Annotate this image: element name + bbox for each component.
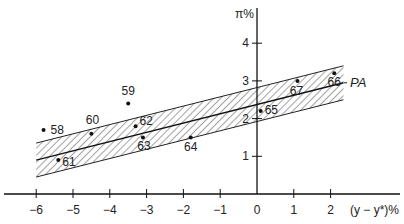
data-point-65 xyxy=(259,109,263,113)
point-label-61: 61 xyxy=(62,155,76,169)
point-label-66: 66 xyxy=(328,75,342,89)
pa-line-label: PA xyxy=(350,75,366,90)
data-point-62 xyxy=(134,124,138,128)
x-tick-label: −2 xyxy=(177,203,191,217)
data-point-64 xyxy=(189,135,193,139)
x-tick-label: −6 xyxy=(29,203,43,217)
x-axis-title: (y − y*)% xyxy=(350,203,399,217)
point-label-62: 62 xyxy=(140,114,154,128)
x-tick-label: −3 xyxy=(140,203,154,217)
y-tick-label: 3 xyxy=(242,74,249,88)
data-point-59 xyxy=(126,102,130,106)
pa-confidence-band xyxy=(36,66,347,177)
data-point-67 xyxy=(295,79,299,83)
x-tick-label: 0 xyxy=(254,203,261,217)
x-tick-label: −1 xyxy=(213,203,227,217)
data-point-58 xyxy=(42,128,46,132)
phillips-curve-chart: −6−5−4−3−2−10121234 58596061626364656667… xyxy=(0,0,404,224)
point-label-67: 67 xyxy=(290,84,304,98)
y-tick-label: 2 xyxy=(242,112,249,126)
y-axis-title: π% xyxy=(235,7,254,21)
data-point-61 xyxy=(56,158,60,162)
point-label-60: 60 xyxy=(86,113,100,127)
x-tick-label: 1 xyxy=(290,203,297,217)
y-tick-label: 4 xyxy=(242,36,249,50)
point-label-64: 64 xyxy=(184,140,198,154)
y-tick-label: 1 xyxy=(242,149,249,163)
data-point-60 xyxy=(89,132,93,136)
x-tick-label: −5 xyxy=(66,203,80,217)
x-tick-label: 2 xyxy=(327,203,334,217)
point-label-65: 65 xyxy=(265,103,279,117)
point-label-59: 59 xyxy=(122,84,136,98)
point-label-58: 58 xyxy=(51,123,65,137)
x-tick-label: −4 xyxy=(103,203,117,217)
chart-canvas: −6−5−4−3−2−10121234 58596061626364656667… xyxy=(0,0,404,224)
point-label-63: 63 xyxy=(137,139,151,153)
